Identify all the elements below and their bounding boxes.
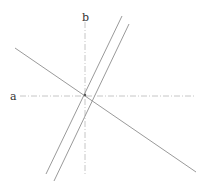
transversal-line <box>15 48 196 172</box>
diagram-canvas: a b <box>0 0 216 189</box>
parallel-line-2 <box>54 24 129 181</box>
axis-a-label: a <box>10 90 17 103</box>
axis-b-label: b <box>82 11 89 24</box>
intersection-point <box>84 94 86 96</box>
